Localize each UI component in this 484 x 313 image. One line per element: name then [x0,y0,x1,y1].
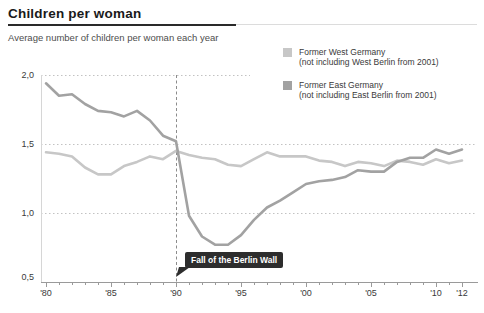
series-line-former-east-germany [46,83,462,244]
legend-swatch-east [283,81,292,90]
x-tick-label: '10 [430,288,442,298]
x-tick-label: '12 [456,288,468,298]
x-tick-label: '05 [365,288,377,298]
x-tick-label: '85 [105,288,117,298]
berlin-wall-annotation: Fall of the Berlin Wall [185,252,283,268]
x-tick-label: '90 [170,288,182,298]
x-tick-label: '95 [235,288,247,298]
annotation-label: Fall of the Berlin Wall [191,255,277,265]
y-tick-label: 0,5 [21,272,34,282]
legend-item-west-germany: Former West Germany (not including West … [283,47,439,67]
legend-note: (not including West Berlin from 2001) [299,57,439,67]
legend-label: Former West Germany [299,47,439,57]
legend: Former West Germany (not including West … [283,47,443,100]
series-line-former-west-germany [46,151,462,175]
x-tick-label: '00 [300,288,312,298]
legend-item-east-germany: Former East Germany (not including East … [283,80,439,100]
chart-card: Children per woman Average number of chi… [0,0,484,313]
legend-note: (not including East Berlin from 2001) [299,90,437,100]
legend-text-east: Former East Germany (not including East … [299,80,437,100]
y-tick-label: 2,0 [21,70,34,80]
legend-label: Former East Germany [299,80,437,90]
x-tick-label: '80 [40,288,52,298]
y-tick-label: 1,5 [21,139,34,149]
legend-text-west: Former West Germany (not including West … [299,47,439,67]
legend-swatch-west [283,48,292,57]
annotation-tail-icon [176,267,190,277]
y-tick-label: 1,0 [21,208,34,218]
